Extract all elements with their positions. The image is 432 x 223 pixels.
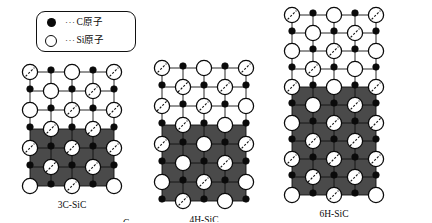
diagram-canvas: ··· C原子 ··· Si原子 CBACBA3C-SiCCBABCBA4H-S… [0, 0, 432, 222]
legend-leader-silicon: ··· [65, 36, 76, 45]
caption-6h-sic: 6H-SiC [280, 209, 388, 219]
legend-item-carbon: ··· C原子 [37, 13, 135, 32]
filled-circle-icon [37, 18, 65, 27]
lattice-6h-sic [280, 3, 388, 207]
open-circle-icon [37, 35, 65, 47]
structure-6h-sic: ACBABCACBA [280, 3, 388, 207]
legend-leader-carbon: ··· [65, 18, 76, 27]
structure-3c-sic: CBACBA [18, 60, 126, 198]
lattice-4h-sic [150, 56, 258, 213]
caption-4h-sic: 4H-SiC [150, 215, 258, 222]
legend-item-silicon: ··· Si原子 [37, 31, 135, 50]
legend-label-carbon: C原子 [77, 18, 103, 28]
legend-box: ··· C原子 ··· Si原子 [36, 11, 136, 52]
layer-label: C [123, 219, 135, 223]
structure-4h-sic: CBABCBA [150, 56, 258, 213]
caption-3c-sic: 3C-SiC [18, 200, 126, 210]
lattice-3c-sic [18, 60, 126, 198]
legend-label-silicon: Si原子 [77, 36, 105, 46]
